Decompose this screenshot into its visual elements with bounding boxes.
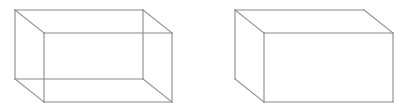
top-right-depth-edge — [143, 10, 172, 33]
bottom-right-depth-edge — [143, 79, 172, 102]
bottom-left-depth-edge — [235, 79, 264, 102]
diagram-canvas — [0, 0, 397, 109]
solid-box — [235, 10, 393, 102]
boxes-diagram — [0, 0, 397, 109]
wireframe-box — [15, 10, 172, 102]
bottom-left-depth-edge — [15, 79, 44, 102]
top-left-depth-edge — [235, 10, 264, 33]
top-right-depth-edge — [364, 10, 393, 33]
top-left-depth-edge — [15, 10, 44, 33]
